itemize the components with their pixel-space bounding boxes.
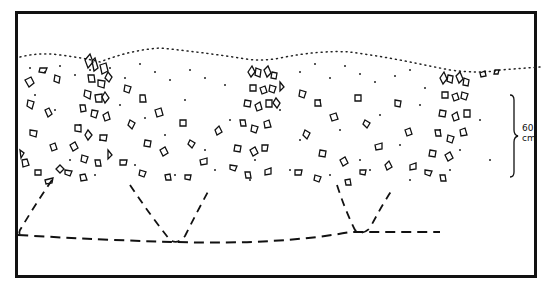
scale-value: 60 <box>522 123 533 133</box>
pit-left <box>19 180 52 234</box>
figure-frame <box>17 13 536 277</box>
scale-bar-brace <box>510 95 518 177</box>
caption <box>250 281 550 290</box>
pit-right <box>337 185 392 233</box>
pit-middle <box>130 185 210 242</box>
base-line <box>18 232 440 243</box>
pit-outlines <box>19 180 392 242</box>
stones <box>20 54 499 185</box>
section-drawing <box>0 0 553 290</box>
scale-unit: cm <box>522 133 536 143</box>
